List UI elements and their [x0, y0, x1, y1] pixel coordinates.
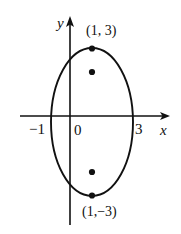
- y-axis-label: y: [57, 16, 64, 31]
- x-tick-label-negative-one: −1: [29, 122, 45, 137]
- y-axis: [66, 16, 74, 225]
- x-tick-label-three: 3: [135, 122, 143, 137]
- ellipse-coordinate-figure: y x −1 0 3 (1, 3) (1,−3): [0, 0, 181, 234]
- point-label-top: (1, 3): [86, 24, 116, 38]
- data-point-bottom-vertex: [89, 192, 95, 198]
- data-point-lower-interior: [89, 169, 95, 175]
- data-point-top-vertex: [89, 45, 95, 51]
- x-axis: [20, 112, 170, 120]
- x-axis-label: x: [160, 123, 167, 138]
- data-point-upper-interior: [89, 69, 95, 75]
- point-label-bottom: (1,−3): [82, 205, 117, 219]
- origin-label: 0: [74, 123, 82, 138]
